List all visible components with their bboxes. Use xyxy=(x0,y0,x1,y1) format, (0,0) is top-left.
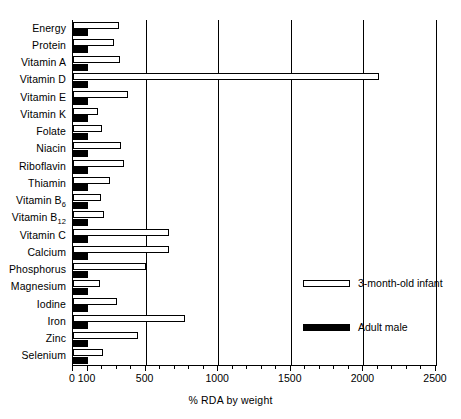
x-minor-tick-1300 xyxy=(261,365,262,369)
bar-adult-vitamin-d xyxy=(73,81,88,88)
bar-group-niacin xyxy=(73,141,436,158)
bar-adult-energy xyxy=(73,29,88,36)
bar-adult-vitamin-k xyxy=(73,115,88,122)
bar-adult-vitamin-a xyxy=(73,64,88,71)
category-label-vitamin-a: Vitamin A xyxy=(0,57,66,68)
bar-adult-vitamin-b12 xyxy=(73,219,88,226)
legend-swatch-infant xyxy=(303,280,350,287)
bar-adult-vitamin-b6 xyxy=(73,202,88,209)
bar-infant-vitamin-b12 xyxy=(73,211,104,218)
bar-infant-vitamin-k xyxy=(73,108,98,115)
category-label-vitamin-b12: Vitamin B12 xyxy=(0,212,66,224)
x-minor-tick-1800 xyxy=(333,365,334,369)
bar-adult-folate xyxy=(73,133,88,140)
x-tick-label-2000: 2000 xyxy=(351,372,374,384)
x-axis-title: % RDA by weight xyxy=(0,394,461,406)
bar-adult-protein xyxy=(73,46,88,53)
chart-figure: EnergyProteinVitamin AVitamin DVitamin E… xyxy=(0,0,461,419)
bar-infant-folate xyxy=(73,125,102,132)
x-minor-tick-900 xyxy=(203,365,204,369)
category-label-protein: Protein xyxy=(0,40,66,51)
bar-adult-selenium xyxy=(73,357,88,364)
category-label-energy: Energy xyxy=(0,23,66,34)
x-minor-tick-1100 xyxy=(232,365,233,369)
bar-infant-thiamin xyxy=(73,177,110,184)
bar-group-energy xyxy=(73,20,436,37)
legend-label-adult: Adult male xyxy=(358,321,408,333)
bar-group-folate xyxy=(73,124,436,141)
bar-infant-vitamin-a xyxy=(73,56,120,63)
category-label-vitamin-b6: Vitamin B6 xyxy=(0,195,66,207)
bar-infant-iron xyxy=(73,315,185,322)
category-label-vitamin-e: Vitamin E xyxy=(0,92,66,103)
x-tick-500 xyxy=(145,365,146,371)
x-minor-tick-700 xyxy=(174,365,175,369)
x-minor-tick-300 xyxy=(116,365,117,369)
bar-infant-selenium xyxy=(73,349,103,356)
bar-group-vitamin-e xyxy=(73,89,436,106)
legend-label-infant: 3-month-old infant xyxy=(358,277,443,289)
category-label-magnesium: Magnesium xyxy=(0,281,66,292)
category-label-riboflavin: Riboflavin xyxy=(0,161,66,172)
bar-group-vitamin-b12 xyxy=(73,210,436,227)
x-minor-tick-2300 xyxy=(406,365,407,369)
x-tick-label-0: 0 xyxy=(69,372,75,384)
category-label-calcium: Calcium xyxy=(0,247,66,258)
x-minor-tick-1200 xyxy=(246,365,247,369)
chart-legend: 3-month-old infantAdult male xyxy=(303,277,453,337)
bar-infant-protein xyxy=(73,39,114,46)
bar-adult-iron xyxy=(73,322,88,329)
x-tick-100 xyxy=(87,365,88,371)
bar-group-calcium xyxy=(73,244,436,261)
bar-adult-vitamin-c xyxy=(73,236,88,243)
bar-infant-calcium xyxy=(73,246,169,253)
category-label-folate: Folate xyxy=(0,126,66,137)
bar-group-vitamin-a xyxy=(73,55,436,72)
x-tick-label-1000: 1000 xyxy=(206,372,229,384)
x-minor-tick-1700 xyxy=(319,365,320,369)
bar-adult-iodine xyxy=(73,305,88,312)
x-tick-2000 xyxy=(362,365,363,371)
bar-group-vitamin-b6 xyxy=(73,193,436,210)
x-minor-tick-1400 xyxy=(275,365,276,369)
bar-infant-riboflavin xyxy=(73,160,124,167)
bar-infant-vitamin-e xyxy=(73,91,128,98)
x-tick-label-2500: 2500 xyxy=(423,372,446,384)
category-label-niacin: Niacin xyxy=(0,143,66,154)
bar-infant-niacin xyxy=(73,142,121,149)
category-label-zinc: Zinc xyxy=(0,333,66,344)
x-minor-tick-600 xyxy=(159,365,160,369)
x-tick-1000 xyxy=(217,365,218,371)
bar-adult-vitamin-e xyxy=(73,98,88,105)
x-tick-label-100: 100 xyxy=(78,372,96,384)
bar-group-vitamin-d xyxy=(73,72,436,89)
bar-group-riboflavin xyxy=(73,158,436,175)
bar-group-protein xyxy=(73,37,436,54)
category-label-vitamin-c: Vitamin C xyxy=(0,230,66,241)
category-label-vitamin-d: Vitamin D xyxy=(0,74,66,85)
bar-adult-calcium xyxy=(73,253,88,260)
x-minor-tick-1900 xyxy=(348,365,349,369)
legend-swatch-adult xyxy=(303,324,350,331)
x-minor-tick-2200 xyxy=(391,365,392,369)
x-tick-label-1500: 1500 xyxy=(278,372,301,384)
x-minor-tick-400 xyxy=(130,365,131,369)
bar-group-selenium xyxy=(73,348,436,365)
x-minor-tick-2100 xyxy=(377,365,378,369)
bar-group-vitamin-k xyxy=(73,106,436,123)
bar-adult-zinc xyxy=(73,340,88,347)
bar-adult-riboflavin xyxy=(73,167,88,174)
bar-group-vitamin-c xyxy=(73,227,436,244)
x-tick-0 xyxy=(72,365,73,371)
bar-adult-magnesium xyxy=(73,288,88,295)
x-minor-tick-1600 xyxy=(304,365,305,369)
bar-infant-magnesium xyxy=(73,280,100,287)
bar-infant-vitamin-b6 xyxy=(73,194,101,201)
category-label-iodine: Iodine xyxy=(0,299,66,310)
bar-infant-energy xyxy=(73,22,119,29)
x-axis: 01005001000150020002500 xyxy=(72,365,435,395)
bar-infant-vitamin-d xyxy=(73,73,379,80)
x-minor-tick-2400 xyxy=(420,365,421,369)
category-label-vitamin-k: Vitamin K xyxy=(0,109,66,120)
x-minor-tick-200 xyxy=(101,365,102,369)
